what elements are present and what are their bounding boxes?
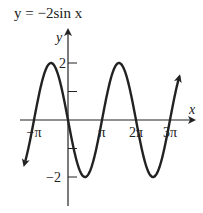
sine-chart: 2−2−ππ2π3πxy [0,0,203,213]
x-tick-label: π [98,125,105,140]
x-tick-label: 3π [163,125,177,140]
x-axis-label: x [188,102,196,117]
x-tick-label: −π [27,125,42,140]
y-axis-label: y [54,30,63,45]
y-tick-label: −2 [46,170,61,185]
x-tick-label: 2π [129,125,143,140]
y-tick-label: 2 [59,56,66,71]
axis-labels: 2−2−ππ2π3πxy [27,30,196,185]
